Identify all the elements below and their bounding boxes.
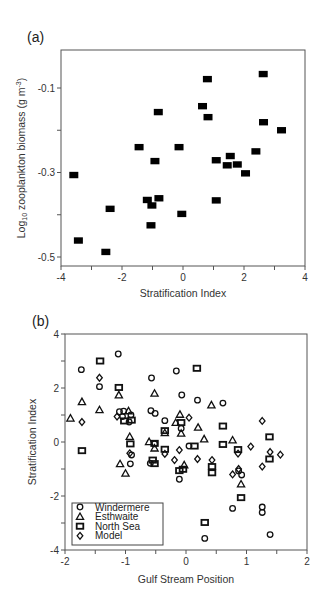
- square-marker-icon: [177, 211, 186, 217]
- diamond-marker-icon: [195, 456, 201, 463]
- panel-b-scatter-chart: (b) -2-1012 -4-2024 Gulf Stream Position…: [26, 313, 310, 585]
- diamond-marker-icon: [186, 414, 192, 421]
- circle-marker-icon: [239, 472, 245, 478]
- diamond-marker-icon: [236, 466, 242, 473]
- square-marker-icon: [175, 144, 184, 150]
- panel-a-x-axis: -4-2024: [57, 266, 309, 283]
- series-zooplankton-biomass: [69, 71, 286, 255]
- x-tick-label: 0: [183, 556, 189, 567]
- square-marker-icon: [151, 461, 158, 466]
- y-tick-label: 2: [53, 383, 59, 394]
- diamond-marker-icon: [259, 418, 265, 425]
- square-marker-icon: [101, 249, 110, 255]
- x-tick-label: -1: [121, 556, 130, 567]
- square-marker-icon: [266, 456, 273, 461]
- triangle-marker-icon: [151, 390, 158, 396]
- square-marker-icon: [212, 197, 221, 203]
- circle-marker-icon: [149, 375, 155, 381]
- square-marker-icon: [106, 206, 115, 212]
- square-marker-icon: [194, 366, 201, 371]
- legend-label: Model: [95, 530, 122, 541]
- panel-b-label: (b): [32, 313, 49, 329]
- triangle-marker-icon: [116, 460, 123, 466]
- x-tick-label: 0: [180, 272, 186, 283]
- series-north-sea: [79, 358, 273, 525]
- square-marker-icon: [147, 202, 156, 208]
- circle-marker-icon: [179, 392, 185, 398]
- square-marker-icon: [220, 442, 227, 447]
- diamond-marker-icon: [177, 447, 183, 454]
- square-marker-icon: [277, 127, 286, 133]
- y-tick-label: -2: [50, 491, 59, 502]
- panel-b-legend: WindermereEsthwaiteNorth SeaModel: [72, 502, 163, 546]
- diamond-marker-icon: [278, 451, 284, 458]
- square-marker-icon: [127, 441, 134, 446]
- square-marker-icon: [233, 161, 242, 167]
- square-marker-icon: [209, 470, 216, 475]
- triangle-marker-icon: [201, 435, 208, 441]
- y-tick-label: -4: [50, 545, 59, 556]
- panel-a-frame: [61, 50, 305, 266]
- triangle-marker-icon: [208, 401, 215, 407]
- circle-marker-icon: [128, 461, 134, 467]
- circle-marker-icon: [148, 408, 154, 414]
- circle-marker-icon: [195, 397, 201, 403]
- diamond-marker-icon: [230, 471, 236, 478]
- square-marker-icon: [226, 153, 235, 159]
- triangle-marker-icon: [122, 470, 129, 476]
- triangle-marker-icon: [78, 398, 85, 404]
- circle-marker-icon: [174, 368, 180, 374]
- square-marker-icon: [241, 170, 250, 176]
- panel-b-y-axis-title: Stratification Index: [26, 398, 38, 485]
- panel-b-x-axis-title: Gulf Stream Position: [138, 573, 234, 585]
- panel-a-x-axis-title: Stratification Index: [140, 287, 227, 299]
- y-tick-label: -0.1: [38, 83, 56, 94]
- panel-a-y-axis: -0.5-0.3-0.1: [38, 83, 61, 263]
- square-marker-icon: [259, 71, 268, 77]
- diamond-marker-icon: [248, 443, 254, 450]
- circle-marker-icon: [220, 400, 226, 406]
- square-marker-icon: [259, 119, 268, 125]
- square-marker-icon: [266, 434, 273, 439]
- square-marker-icon: [97, 358, 104, 363]
- square-marker-icon: [162, 428, 169, 433]
- square-marker-icon: [154, 109, 163, 115]
- x-tick-label: -2: [118, 272, 127, 283]
- square-marker-icon: [116, 385, 123, 390]
- square-marker-icon: [146, 222, 155, 228]
- square-marker-icon: [251, 148, 260, 154]
- diamond-marker-icon: [267, 449, 273, 456]
- x-tick-label: 2: [304, 556, 310, 567]
- square-marker-icon: [154, 195, 163, 201]
- diamond-marker-icon: [97, 374, 103, 381]
- diamond-marker-icon: [259, 463, 265, 470]
- triangle-marker-icon: [126, 433, 133, 439]
- square-marker-icon: [150, 158, 159, 164]
- panel-a-label: (a): [27, 29, 44, 45]
- square-marker-icon: [209, 464, 216, 469]
- square-marker-icon: [201, 520, 208, 525]
- square-marker-icon: [135, 144, 144, 150]
- triangle-marker-icon: [176, 411, 183, 417]
- diamond-marker-icon: [172, 457, 178, 464]
- circle-marker-icon: [267, 532, 273, 538]
- panel-b-y-axis: -4-2024: [50, 329, 65, 556]
- square-marker-icon: [238, 495, 245, 500]
- circle-marker-icon: [230, 506, 236, 512]
- square-marker-icon: [204, 114, 213, 120]
- diamond-marker-icon: [79, 419, 85, 426]
- circle-marker-icon: [115, 351, 121, 357]
- square-marker-icon: [74, 237, 83, 243]
- x-tick-label: -4: [57, 272, 66, 283]
- triangle-marker-icon: [96, 406, 103, 412]
- square-marker-icon: [79, 448, 86, 453]
- square-marker-icon: [220, 423, 227, 428]
- square-marker-icon: [143, 197, 152, 203]
- series-esthwaite: [67, 390, 245, 487]
- circle-marker-icon: [97, 384, 103, 390]
- diamond-marker-icon: [209, 457, 215, 464]
- y-tick-label: -0.5: [38, 252, 56, 263]
- panel-a-scatter-chart: (a) -4-2024 -0.5-0.3-0.1 Stratification …: [15, 29, 308, 299]
- x-tick-label: -2: [61, 556, 70, 567]
- panel-a-data-points: [69, 71, 286, 255]
